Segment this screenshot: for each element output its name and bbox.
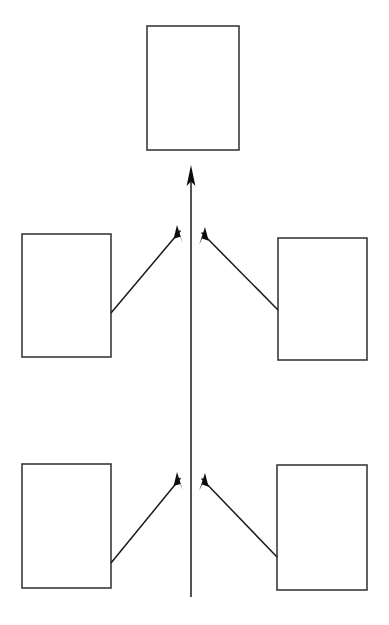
node-top[interactable] xyxy=(147,26,239,150)
node-bottom-left[interactable] xyxy=(22,464,111,588)
connector-bottom-left-to-spine[interactable] xyxy=(111,472,183,563)
node-bottom-left-rect[interactable] xyxy=(22,464,111,588)
node-bottom-right[interactable] xyxy=(277,465,367,590)
connector-middle-left-to-spine[interactable] xyxy=(111,225,183,313)
node-top-rect[interactable] xyxy=(147,26,239,150)
node-middle-left-rect[interactable] xyxy=(22,234,111,357)
connector-spine-to-top[interactable] xyxy=(187,165,196,597)
node-middle-left[interactable] xyxy=(22,234,111,357)
connector-middle-right-to-spine-arrowhead xyxy=(199,227,208,245)
node-group xyxy=(22,26,367,590)
connector-bottom-left-to-spine-arrowhead xyxy=(174,472,183,490)
connector-bottom-right-to-spine[interactable] xyxy=(199,473,277,557)
node-middle-right-rect[interactable] xyxy=(278,238,367,360)
node-middle-right[interactable] xyxy=(278,238,367,360)
connector-middle-right-to-spine-line xyxy=(202,233,279,311)
flow-diagram xyxy=(0,0,389,625)
connector-bottom-right-to-spine-arrowhead xyxy=(199,473,208,491)
connector-middle-right-to-spine[interactable] xyxy=(199,227,278,310)
diagram-canvas xyxy=(0,0,389,625)
connector-bottom-right-to-spine-line xyxy=(202,479,278,558)
connector-middle-left-to-spine-arrowhead xyxy=(174,225,183,243)
connector-bottom-left-to-spine-line xyxy=(111,478,181,563)
node-bottom-right-rect[interactable] xyxy=(277,465,367,590)
connector-group xyxy=(111,165,278,597)
connector-middle-left-to-spine-line xyxy=(111,231,181,314)
